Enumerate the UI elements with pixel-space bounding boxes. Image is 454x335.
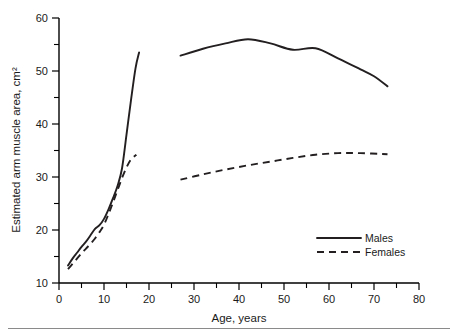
- series-males-adults-line: [181, 39, 388, 86]
- legend-label-females: Females: [365, 246, 405, 258]
- chart-figure: 10 20 30 40 50 60: [0, 0, 454, 335]
- x-axis-title: Age, years: [212, 312, 267, 324]
- x-tick-label: 0: [56, 293, 62, 305]
- x-tick-label: 60: [323, 293, 335, 305]
- series-females-adults-line: [181, 153, 388, 180]
- x-tick-label: 40: [233, 293, 245, 305]
- series-group: [68, 39, 388, 269]
- x-tick-label: 50: [278, 293, 290, 305]
- legend-label-males: Males: [365, 232, 393, 244]
- x-axis-major-ticks: [59, 283, 419, 290]
- footer-divider: [8, 328, 450, 329]
- x-tick-label: 70: [368, 293, 380, 305]
- x-tick-label: 80: [413, 293, 425, 305]
- y-tick-label: 50: [36, 65, 48, 77]
- y-tick-label: 60: [36, 12, 48, 24]
- x-tick-label: 10: [98, 293, 110, 305]
- y-tick-label: 30: [36, 171, 48, 183]
- x-axis-tick-labels: 0 10 20 30 40 50 60 70 80: [56, 293, 425, 305]
- y-tick-label: 10: [36, 277, 48, 289]
- arm-muscle-area-line-chart: 10 20 30 40 50 60: [0, 0, 454, 335]
- y-tick-label: 20: [36, 224, 48, 236]
- x-tick-label: 30: [188, 293, 200, 305]
- y-axis-title: Estimated arm muscle area, cm²: [10, 67, 22, 233]
- y-axis-tick-labels: 10 20 30 40 50 60: [36, 12, 48, 289]
- series-males-children-line: [68, 52, 139, 265]
- y-tick-label: 40: [36, 118, 48, 130]
- y-axis-minor-ticks: [54, 45, 59, 257]
- legend: Males Females: [317, 232, 405, 258]
- x-tick-label: 20: [143, 293, 155, 305]
